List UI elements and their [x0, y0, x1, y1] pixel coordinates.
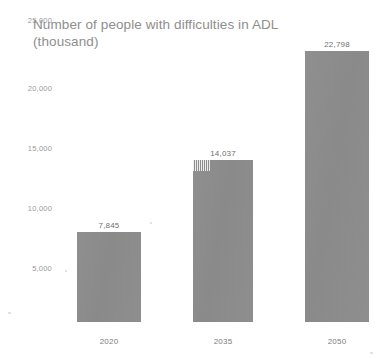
- bar-group-2035[interactable]: 14,037 2035: [193, 0, 253, 358]
- bar-value-label-2035: 14,037: [193, 149, 253, 158]
- bar-chart: 25,000 20,000 15,000 10,000 5,000 Number…: [0, 0, 380, 358]
- scan-speck: [8, 312, 11, 314]
- bar-value-label-2050: 22,798: [305, 40, 369, 49]
- bar-value-label-2020: 7,845: [77, 221, 141, 230]
- scan-speck: [150, 222, 152, 224]
- x-tick-label-2050: 2050: [305, 337, 369, 346]
- plot-area: 7,845 2020 14,037 2035 22,798 2050: [0, 0, 380, 358]
- bar-2050[interactable]: [305, 51, 369, 322]
- bar-group-2020[interactable]: 7,845 2020: [77, 0, 141, 358]
- bar-2020[interactable]: [77, 232, 141, 322]
- x-tick-label-2020: 2020: [77, 337, 141, 346]
- scan-speck: [65, 270, 67, 272]
- bar-group-2050[interactable]: 22,798 2050: [305, 0, 369, 358]
- scan-speck: [370, 352, 373, 354]
- x-tick-label-2035: 2035: [193, 337, 253, 346]
- bar-2035[interactable]: [193, 160, 253, 322]
